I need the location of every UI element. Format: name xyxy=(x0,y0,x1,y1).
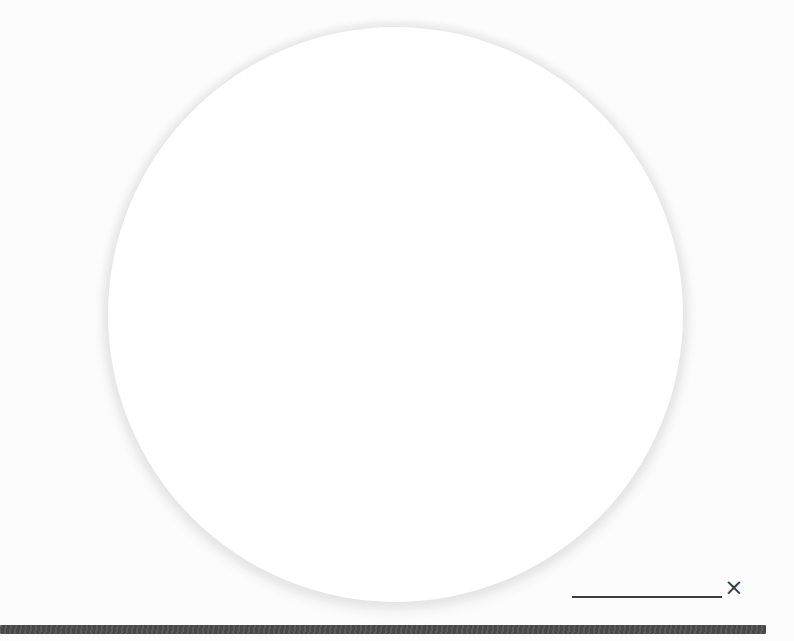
circle-figure xyxy=(108,27,683,602)
close-icon[interactable]: × xyxy=(721,574,747,600)
page: × xyxy=(0,0,794,641)
blank-line xyxy=(572,596,722,598)
bottom-rule xyxy=(0,625,766,634)
